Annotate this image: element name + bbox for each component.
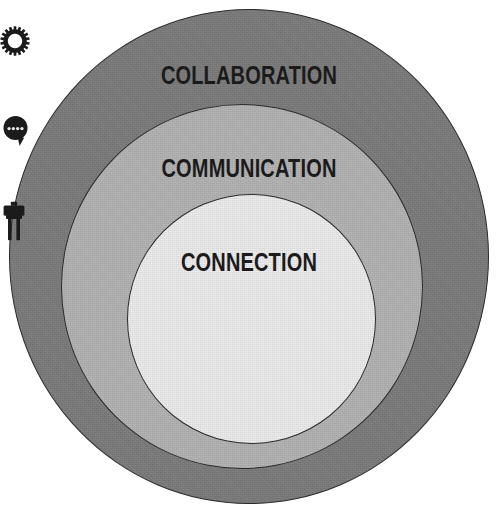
layer-label-connection: CONNECTION: [0, 201, 498, 275]
gear-icon: [0, 26, 498, 56]
layer-label-collaboration: COLLABORATION: [0, 26, 498, 88]
layer-label-communication: COMMUNICATION: [0, 115, 498, 181]
layer-label-text-communication: COMMUNICATION: [50, 156, 448, 181]
layer-label-text-connection: CONNECTION: [50, 250, 448, 275]
layer-label-text-collaboration: COLLABORATION: [50, 63, 448, 88]
speech-bubble-icon: [0, 115, 498, 147]
plug-icon: [0, 201, 498, 241]
concentric-circles-diagram: COLLABORATION COMMUNICATION: [0, 0, 498, 518]
